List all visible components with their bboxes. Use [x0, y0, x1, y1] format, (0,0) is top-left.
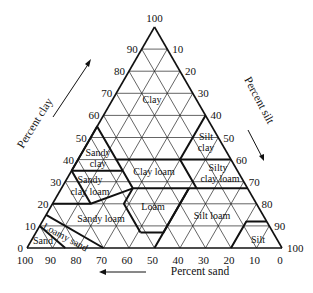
class-label-sand: Sand	[33, 235, 53, 246]
class-label-silty-clay: Silt	[199, 131, 213, 142]
class-label-silty-clay-loam: Silty	[209, 162, 228, 173]
silt-tick: 90	[274, 220, 286, 232]
sand-tick: 0	[277, 254, 283, 266]
clay-tick: 20	[38, 198, 50, 210]
clay-tick: 10	[25, 220, 37, 232]
clay-tick: 0	[18, 242, 24, 254]
class-label-clay-loam: Clay loam	[133, 166, 175, 177]
sand-tick: 90	[45, 254, 57, 266]
silt-arrow-shaft	[248, 130, 262, 157]
boundary-silt-loam	[155, 188, 189, 248]
silt-tick: 80	[262, 198, 274, 210]
axis-title-clay: Percent clay	[15, 96, 56, 151]
class-label-sandy-clay-loam: Sandy	[78, 174, 103, 185]
sand-tick: 70	[96, 254, 108, 266]
clay-arrow-head-icon	[85, 59, 91, 67]
axis-title-sand: Percent sand	[171, 265, 230, 277]
class-label-sandy-clay-loam-2: clay loam	[70, 186, 109, 197]
class-label-sandy-clay-2: clay	[90, 158, 107, 169]
sand-tick: 80	[71, 254, 83, 266]
silt-tick: 100	[287, 242, 304, 254]
silt-tick: 20	[185, 65, 197, 77]
clay-arrow-shaft	[53, 63, 89, 117]
class-label-clay: Clay	[143, 94, 162, 105]
clay-tick: 100	[146, 12, 163, 24]
soil-texture-triangle: 0102030405060708090100102030405060708090…	[0, 0, 313, 293]
grid-lines	[40, 49, 270, 248]
sand-tick: 60	[122, 254, 134, 266]
silt-tick: 10	[172, 43, 184, 55]
class-label-silty-clay-loam-2: clay loam	[200, 173, 239, 184]
clay-tick: 80	[114, 65, 126, 77]
class-label-silt-loam: Silt loam	[194, 210, 231, 221]
triangle-diagram: 0102030405060708090100102030405060708090…	[0, 0, 313, 293]
silt-tick: 40	[211, 109, 223, 121]
silt-tick: 60	[236, 154, 248, 166]
silt-tick: 30	[198, 87, 210, 99]
silt-tick: 70	[249, 176, 261, 188]
sand-arrow-head-icon	[99, 269, 106, 275]
clay-tick: 60	[89, 109, 101, 121]
clay-tick: 30	[50, 176, 62, 188]
class-label-silty-clay-2: clay	[198, 142, 215, 153]
class-label-sandy-loam: Sandy loam	[77, 213, 125, 224]
axis-title-silt: Percent silt	[242, 75, 277, 127]
clay-tick: 40	[63, 154, 75, 166]
class-labels: Clay Silt clay Sandy clay Clay loam Silt…	[33, 94, 265, 253]
class-label-sandy-clay: Sandy	[86, 147, 111, 158]
sand-tick: 50	[147, 254, 159, 266]
clay-tick: 50	[76, 132, 88, 144]
silt-arrow-head-icon	[259, 154, 264, 161]
class-label-silt: Silt	[251, 234, 265, 245]
class-label-loam: Loam	[141, 201, 165, 212]
clay-tick: 90	[127, 43, 139, 55]
sand-tick: 10	[249, 254, 261, 266]
silt-tick: 50	[223, 132, 235, 144]
sand-tick: 100	[17, 254, 34, 266]
clay-tick: 70	[101, 87, 113, 99]
